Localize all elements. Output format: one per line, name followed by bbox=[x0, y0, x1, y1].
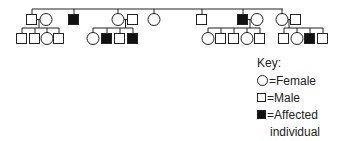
affected-male-square-icon bbox=[128, 34, 138, 44]
male-square-icon bbox=[54, 34, 64, 44]
female-circle-icon bbox=[241, 33, 253, 45]
male-square-icon bbox=[17, 34, 27, 44]
female-circle-icon bbox=[276, 14, 288, 26]
legend-affected: =Affected bbox=[257, 108, 320, 125]
female-circle-icon bbox=[202, 33, 214, 45]
male-square-icon bbox=[128, 15, 138, 25]
legend-title: Key: bbox=[257, 56, 320, 70]
affected-male-square-icon bbox=[305, 34, 315, 44]
female-circle-icon bbox=[87, 33, 99, 45]
male-square-icon bbox=[115, 34, 125, 44]
female-circle-icon bbox=[41, 33, 53, 45]
legend-female-label: =Female bbox=[269, 74, 316, 88]
legend-male: =Male bbox=[257, 91, 320, 108]
female-circle-icon bbox=[257, 75, 268, 86]
male-square-icon bbox=[229, 34, 239, 44]
female-circle-icon bbox=[251, 14, 263, 26]
male-square-icon bbox=[279, 34, 289, 44]
male-square-icon bbox=[216, 34, 226, 44]
affected-square-icon bbox=[257, 110, 266, 119]
affected-male-square-icon bbox=[102, 34, 112, 44]
male-square-icon bbox=[291, 15, 301, 25]
female-circle-icon bbox=[291, 33, 303, 45]
legend: Key: =Female =Male =Affected individual bbox=[257, 56, 320, 139]
affected-male-square-icon bbox=[238, 15, 248, 25]
male-square-icon bbox=[30, 34, 40, 44]
male-square-icon bbox=[318, 34, 328, 44]
legend-affected-label: =Affected bbox=[267, 108, 318, 122]
legend-male-label: =Male bbox=[267, 91, 300, 105]
male-square-icon bbox=[255, 34, 265, 44]
legend-female: =Female bbox=[257, 74, 320, 91]
male-square-icon bbox=[197, 15, 207, 25]
male-square-icon bbox=[257, 93, 266, 102]
female-circle-icon bbox=[112, 14, 124, 26]
pedigree-chart bbox=[0, 0, 343, 60]
legend-affected-label-2: individual bbox=[257, 125, 320, 139]
affected-male-square-icon bbox=[69, 15, 79, 25]
female-circle-icon bbox=[148, 14, 160, 26]
male-square-icon bbox=[27, 15, 37, 25]
female-circle-icon bbox=[40, 14, 52, 26]
